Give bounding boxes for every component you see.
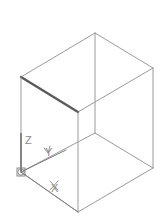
- edge-top-right-to-top-front[interactable]: [78, 68, 153, 112]
- edge-bottom-back-to-bottom-right[interactable]: [95, 133, 153, 168]
- cad-viewport[interactable]: Z Y X: [0, 0, 168, 224]
- ucs-y-label: Y: [45, 146, 53, 158]
- ucs-x-axis-line: [21, 172, 78, 212]
- box-wireframe[interactable]: [21, 33, 153, 212]
- ucs-z-label: Z: [25, 134, 32, 146]
- edge-top-back-to-top-left[interactable]: [21, 33, 95, 77]
- edge-top-left-to-top-front-highlighted[interactable]: [21, 77, 78, 112]
- edge-top-back-to-top-right[interactable]: [95, 33, 153, 68]
- ucs-icon[interactable]: Z Y X: [17, 133, 78, 212]
- edge-bottom-right-to-bottom-front[interactable]: [78, 168, 153, 212]
- cad-drawing-canvas[interactable]: Z Y X: [0, 0, 168, 224]
- ucs-y-axis-line: [21, 150, 66, 172]
- ucs-x-label: X: [51, 182, 59, 194]
